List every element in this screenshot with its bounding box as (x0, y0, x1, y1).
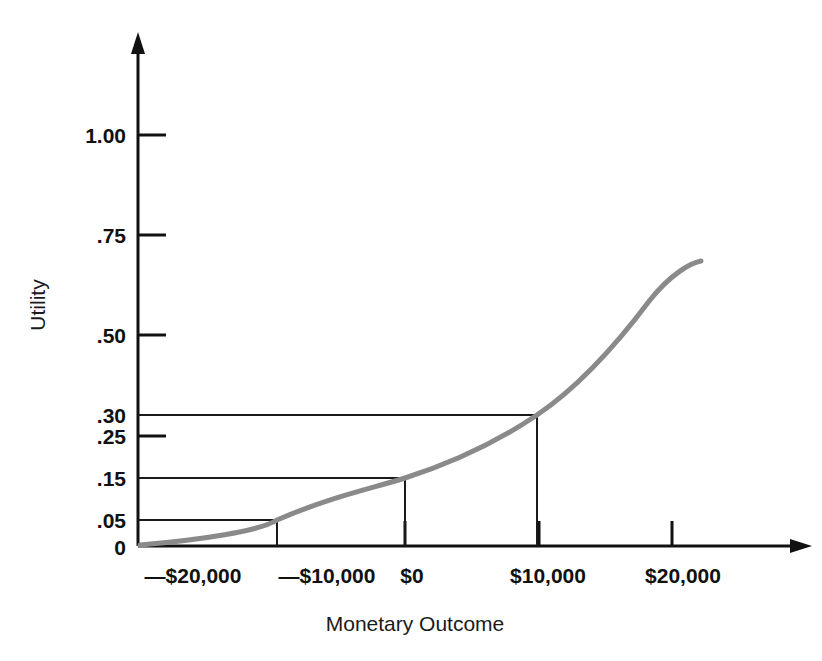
y-tick-label-.05: .05 (97, 509, 127, 532)
y-tick-label-.50: .50 (97, 324, 126, 347)
x-tick-label-0: $0 (400, 564, 423, 587)
x-axis-title: Monetary Outcome (326, 612, 505, 635)
x-axis-tick-labels: —$20,000 —$10,000 $0 $10,000 $20,000 (145, 564, 721, 587)
x-axis-arrowhead (790, 539, 812, 553)
y-tick-label-.75: .75 (97, 224, 127, 247)
y-tick-label-.25: .25 (97, 425, 127, 448)
x-tick-label-20000: $20,000 (645, 564, 721, 587)
y-tick-label-.30: .30 (97, 404, 126, 427)
x-axis-ticks (405, 521, 672, 546)
y-tick-label-.15: .15 (97, 467, 127, 490)
y-axis-tick-labels: 1.00 .75 .50 .30 .25 .15 .05 0 (85, 124, 126, 559)
utility-function-figure: 1.00 .75 .50 .30 .25 .15 .05 0 —$20,000 … (0, 0, 822, 661)
x-tick-label--10000: —$10,000 (279, 564, 376, 587)
y-tick-label-0: 0 (114, 536, 126, 559)
y-tick-label-1.00: 1.00 (85, 124, 126, 147)
x-tick-label-10000: $10,000 (510, 564, 586, 587)
chart-canvas: 1.00 .75 .50 .30 .25 .15 .05 0 —$20,000 … (0, 0, 822, 661)
reference-guides (138, 415, 537, 546)
y-axis-ticks (138, 135, 166, 436)
utility-curve-group (140, 261, 701, 545)
axes-group (131, 32, 812, 553)
utility-curve-path (140, 261, 701, 545)
y-axis-arrowhead (131, 32, 145, 54)
x-tick-label--20000: —$20,000 (145, 564, 242, 587)
y-axis-title: Utility (26, 279, 49, 331)
guide-line-0.30 (138, 415, 537, 546)
